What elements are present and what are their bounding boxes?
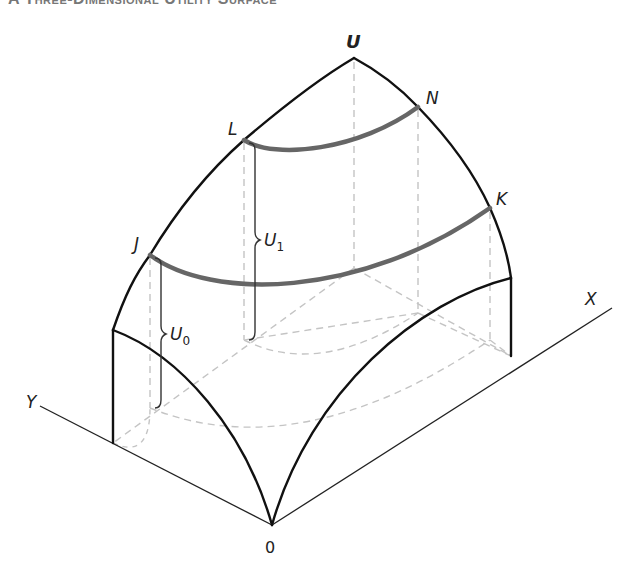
utility-surface-diagram: U N L J K X Y 0 U1 U0 xyxy=(0,0,621,584)
brace-u0 xyxy=(155,258,166,408)
label-n: N xyxy=(426,88,439,108)
y-axis xyxy=(40,406,272,525)
brace-u1 xyxy=(249,143,260,340)
axes xyxy=(40,308,612,525)
surface-edges xyxy=(113,58,511,525)
label-j: J xyxy=(131,234,139,254)
curve-L-N xyxy=(244,107,418,150)
label-u1: U1 xyxy=(264,230,284,254)
label-l: L xyxy=(228,119,237,139)
label-k: K xyxy=(496,189,509,209)
indifference-curves xyxy=(150,107,490,284)
curve-J-K xyxy=(150,208,490,284)
label-origin: 0 xyxy=(265,538,275,557)
label-peak-u: U xyxy=(346,31,361,52)
hidden-lines xyxy=(113,62,511,447)
label-y-axis: Y xyxy=(26,392,38,412)
label-x-axis: X xyxy=(584,289,597,309)
label-u0: U0 xyxy=(170,324,190,348)
